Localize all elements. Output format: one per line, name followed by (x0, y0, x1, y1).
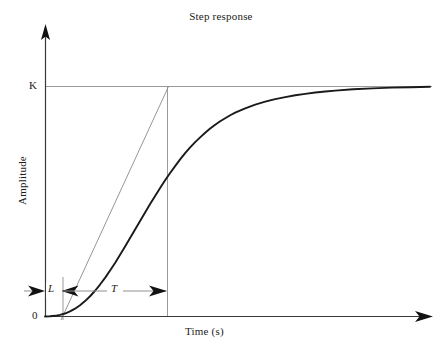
plot-canvas (0, 0, 442, 349)
step-response-curve (45, 87, 430, 317)
y-axis-label: Amplitude (17, 138, 28, 224)
x-axis-label: Time (s) (185, 326, 224, 337)
step-response-figure: Step response Amplitude Time (s) K 0 L T (0, 0, 442, 349)
steady-state-label: K (29, 80, 37, 91)
origin-label: 0 (32, 310, 38, 321)
time-constant-label: T (111, 283, 117, 294)
chart-title: Step response (0, 11, 442, 22)
dead-time-label: L (48, 283, 54, 294)
